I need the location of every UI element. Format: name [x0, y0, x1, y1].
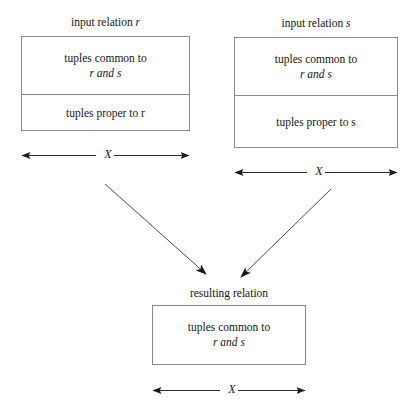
input-relation-s-dimension-label: X: [305, 164, 333, 179]
input-relation-r-caption-text: input relation: [71, 16, 133, 28]
input-relation-r-box: tuples common to r and s tuples proper t…: [21, 36, 190, 131]
resulting-relation-common-cell: tuples common to r and s: [153, 306, 305, 364]
arrow-from-s-to-result: [241, 189, 331, 277]
input-relation-s-common-line2: r and s: [300, 68, 332, 80]
resulting-relation-caption: resulting relation: [152, 286, 306, 300]
resulting-relation-dimension-label: X: [218, 382, 246, 397]
input-relation-s-caption: input relation s: [234, 16, 398, 30]
input-relation-s-common-cell: tuples common to r and s: [235, 38, 397, 96]
input-relation-r-common-line1: tuples common to: [64, 52, 146, 64]
input-relation-r-caption: input relation r: [21, 15, 190, 29]
relation-intersection-diagram: input relation r tuples common to r and …: [0, 0, 418, 415]
input-relation-s-caption-variable: s: [346, 17, 350, 29]
input-relation-s-proper-text: tuples proper to s: [276, 115, 356, 130]
input-relation-s-box: tuples common to r and s tuples proper t…: [234, 37, 398, 148]
input-relation-r-dimension-label: X: [94, 147, 122, 162]
input-relation-r-proper-text: tuples proper to r: [66, 106, 145, 121]
input-relation-r-proper-cell: tuples proper to r: [22, 95, 189, 131]
input-relation-r-common-line2: r and s: [90, 67, 122, 79]
input-relation-s-common-line1: tuples common to: [275, 53, 357, 65]
input-relation-s-proper-cell: tuples proper to s: [235, 96, 397, 148]
input-relation-r-common-cell: tuples common to r and s: [22, 37, 189, 95]
resulting-relation-box: tuples common to r and s: [152, 305, 306, 365]
arrow-from-r-to-result: [105, 184, 206, 274]
resulting-relation-line2: r and s: [213, 336, 245, 348]
resulting-relation-line1: tuples common to: [188, 321, 270, 333]
input-relation-s-caption-text: input relation: [282, 17, 344, 29]
input-relation-r-caption-variable: r: [136, 16, 140, 28]
